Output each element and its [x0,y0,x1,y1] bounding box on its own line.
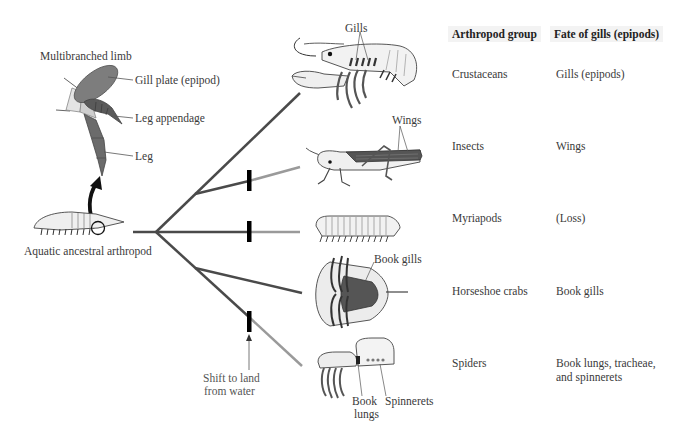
leg-label: Leg [135,150,153,163]
row-fate-horseshoe-crabs: Book gills [556,284,604,298]
row-fate-insects: Wings [556,139,586,153]
row-fate-myriapods: (Loss) [556,211,585,225]
row-group-crustaceans: Crustaceans [452,67,508,81]
multibranched-limb-illustration [56,59,133,176]
grasshopper-illustration [306,126,422,186]
header-arthropod-group: Arthropod group [448,26,541,42]
row-group-spiders: Spiders [452,356,487,370]
row-group-horseshoe-crabs: Horseshoe crabs [452,284,528,298]
horseshoe-crab-illustration [316,256,408,328]
book-lungs-label-1: Book [352,395,377,408]
row-fate-spiders-1: Book lungs, tracheae, [556,356,656,370]
header-fate-of-gills: Fate of gills (epipods) [550,26,663,42]
book-gills-label: Book gills [374,253,422,266]
row-fate-crustaceans: Gills (epipods) [556,67,625,81]
land-shift-marker-myriapods [247,221,252,242]
phylogenetic-tree [133,93,302,370]
gills-label: Gills [345,22,367,35]
book-lungs-label-2: lungs [354,408,379,421]
limb-title: Multibranched limb [40,50,132,63]
land-shift-marker-insects [247,170,252,191]
leg-shape [84,114,106,176]
gill-plate-label: Gill plate (epipod) [135,74,220,87]
shift-label-2: from water [204,385,255,398]
land-shift-marker-spiders [247,311,252,332]
crayfish-illustration [292,32,417,108]
millipede-illustration [316,216,400,242]
spinnerets-label: Spinnerets [385,395,434,408]
spider-illustration [318,338,394,398]
row-group-myriapods: Myriapods [452,211,502,225]
ancestor-label: Aquatic ancestral arthropod [24,245,152,258]
row-fate-spiders-2: and spinnerets [556,370,622,384]
leg-appendage-label: Leg appendage [135,112,205,125]
ancestral-arthropod-illustration [34,212,124,235]
wings-label: Wings [392,114,422,127]
shift-label-1: Shift to land [203,372,260,385]
row-group-insects: Insects [452,139,484,153]
